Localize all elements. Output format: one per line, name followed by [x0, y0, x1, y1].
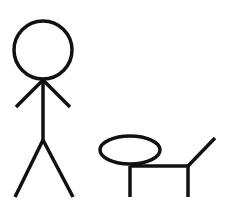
person-arm-left [16, 80, 43, 107]
animal-tail [188, 138, 215, 166]
animal-figure [100, 136, 215, 197]
person-head [14, 21, 72, 79]
drawing-canvas: stick figure person stick figure animal [0, 0, 233, 216]
person-figure [14, 21, 73, 197]
person-leg-right [43, 140, 73, 197]
person-arm-right [43, 80, 70, 107]
person-leg-left [15, 140, 43, 197]
stick-figures-drawing [0, 0, 233, 216]
animal-head [100, 136, 160, 164]
